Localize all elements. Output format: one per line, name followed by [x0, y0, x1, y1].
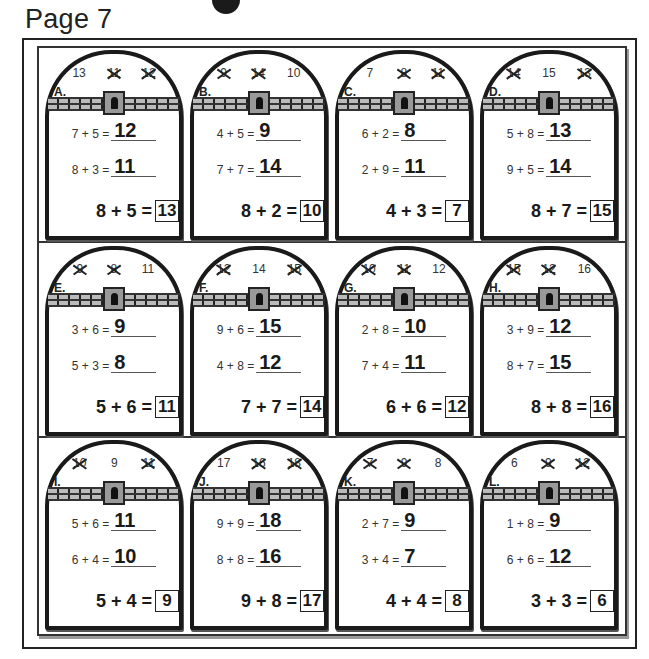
final-equation: 4 + 4 =8	[335, 590, 469, 612]
answer-choice-crossed: 18	[288, 456, 301, 470]
problem-row: 8 + 3 =11	[45, 156, 183, 177]
problem-answer: 12	[546, 316, 591, 337]
final-expression: 5 + 4 =	[96, 591, 152, 612]
answer-choices: 151216	[480, 262, 618, 276]
problem-answer: 16	[256, 546, 301, 567]
answer-choice-crossed: 9	[398, 456, 410, 470]
problem-answer: 12	[111, 120, 156, 141]
problem-answer: 13	[546, 120, 591, 141]
final-expression: 5 + 6 =	[96, 397, 152, 418]
final-answer-box: 14	[300, 396, 324, 418]
answer-choice: 14	[252, 262, 265, 276]
answer-choice: 13	[72, 66, 85, 80]
final-answer-box: 16	[590, 396, 614, 418]
problem-expression: 5 + 6 =	[72, 517, 109, 531]
answer-choice-crossed: 10	[73, 456, 86, 470]
problem-expression: 9 + 6 =	[217, 323, 254, 337]
treasure-chest-card: 121415F.9 + 6 =154 + 8 =127 + 7 =14	[190, 246, 328, 436]
problem-row: 1 + 8 =9	[480, 510, 618, 531]
problem-answer: 18	[256, 510, 301, 531]
problem-expression: 8 + 3 =	[72, 163, 109, 177]
answer-choice: 12	[432, 262, 445, 276]
problem-answer: 9	[256, 120, 301, 141]
problem-row: 6 + 4 =10	[45, 546, 183, 567]
final-equation: 5 + 6 =11	[45, 396, 179, 418]
problem-expression: 6 + 2 =	[362, 127, 399, 141]
answer-choice-crossed: 9	[218, 66, 230, 80]
problem-expression: 7 + 7 =	[217, 163, 254, 177]
row-separator	[37, 436, 627, 438]
problem-row: 9 + 9 =18	[190, 510, 328, 531]
problem-row: 7 + 4 =11	[335, 352, 473, 373]
problem-answer: 11	[111, 510, 156, 531]
answer-choices: 7811	[335, 66, 473, 80]
problem-expression: 3 + 6 =	[72, 323, 109, 337]
treasure-chest-card: 6912L.1 + 8 =96 + 6 =123 + 3 =6	[480, 440, 618, 630]
answer-choices: 798	[335, 456, 473, 470]
final-equation: 8 + 7 =15	[480, 200, 614, 222]
problem-answer: 15	[256, 316, 301, 337]
problem-expression: 4 + 5 =	[217, 127, 254, 141]
answer-choice: 6	[508, 456, 520, 470]
lock-icon	[103, 287, 125, 311]
lock-icon	[393, 481, 415, 505]
final-expression: 9 + 8 =	[241, 591, 297, 612]
answer-choice-crossed: 10	[362, 262, 375, 276]
answer-choice-crossed: 11	[108, 66, 120, 80]
final-expression: 3 + 3 =	[531, 591, 587, 612]
problem-expression: 7 + 4 =	[362, 359, 399, 373]
problem-answer: 9	[111, 316, 156, 337]
problem-answer: 7	[401, 546, 446, 567]
answer-choice-crossed: 12	[217, 262, 230, 276]
final-answer-box: 7	[445, 200, 469, 222]
problem-row: 6 + 2 =8	[335, 120, 473, 141]
problem-expression: 5 + 8 =	[507, 127, 544, 141]
decorative-blob	[212, 0, 240, 14]
problem-answer: 9	[401, 510, 446, 531]
problem-row: 5 + 6 =11	[45, 510, 183, 531]
final-answer-box: 9	[155, 590, 179, 612]
answer-choice: 8	[432, 456, 444, 470]
answer-choice-crossed: 12	[542, 262, 555, 276]
answer-choice-crossed: 12	[142, 66, 155, 80]
final-expression: 8 + 8 =	[531, 397, 587, 418]
problem-row: 2 + 9 =11	[335, 156, 473, 177]
problem-answer: 14	[256, 156, 301, 177]
problem-expression: 8 + 7 =	[507, 359, 544, 373]
problem-expression: 1 + 8 =	[507, 517, 544, 531]
final-expression: 4 + 4 =	[386, 591, 442, 612]
lock-icon	[103, 91, 125, 115]
problem-row: 7 + 5 =12	[45, 120, 183, 141]
lock-icon	[538, 91, 560, 115]
lock-icon	[393, 91, 415, 115]
treasure-chest-card: 151216H.3 + 9 =128 + 7 =158 + 8 =16	[480, 246, 618, 436]
final-equation: 9 + 8 =17	[190, 590, 324, 612]
final-answer-box: 12	[445, 396, 469, 418]
problem-answer: 10	[111, 546, 156, 567]
final-answer-box: 11	[155, 396, 179, 418]
final-expression: 8 + 2 =	[241, 201, 297, 222]
problem-answer: 14	[546, 156, 591, 177]
lock-icon	[248, 287, 270, 311]
problem-expression: 7 + 5 =	[72, 127, 109, 141]
final-answer-box: 6	[590, 590, 614, 612]
answer-choices: 9811	[45, 262, 183, 276]
problem-answer: 11	[401, 156, 446, 177]
problem-expression: 4 + 8 =	[217, 359, 254, 373]
page-title: Page 7	[25, 4, 112, 35]
answer-choice: 10	[287, 66, 300, 80]
final-expression: 6 + 6 =	[386, 397, 442, 418]
problem-answer: 8	[401, 120, 446, 141]
answer-choice-crossed: 7	[364, 456, 376, 470]
problem-row: 3 + 9 =12	[480, 316, 618, 337]
lock-icon	[538, 481, 560, 505]
problem-expression: 5 + 3 =	[72, 359, 109, 373]
lock-icon	[248, 91, 270, 115]
problem-answer: 15	[546, 352, 591, 373]
problem-row: 6 + 6 =12	[480, 546, 618, 567]
answer-choice: 17	[217, 456, 230, 470]
answer-choice-crossed: 11	[398, 262, 410, 276]
answer-choices: 171618	[190, 456, 328, 470]
final-equation: 7 + 7 =14	[190, 396, 324, 418]
problem-expression: 3 + 9 =	[507, 323, 544, 337]
